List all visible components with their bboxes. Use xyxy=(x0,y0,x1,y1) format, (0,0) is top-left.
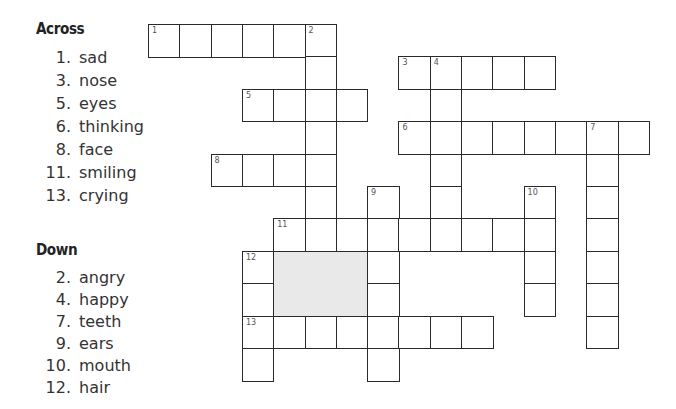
grid-cell[interactable] xyxy=(242,348,275,382)
grid-cell[interactable] xyxy=(305,186,338,220)
grid-cell[interactable] xyxy=(273,154,306,188)
grid-cell[interactable] xyxy=(398,316,431,350)
cell-number: 12 xyxy=(246,253,256,262)
grid-cell[interactable]: 6 xyxy=(398,121,431,155)
cell-number: 5 xyxy=(246,91,251,100)
grid-cell[interactable] xyxy=(618,121,651,155)
grid-cell[interactable] xyxy=(305,218,338,252)
grid-cell[interactable] xyxy=(367,283,400,317)
grid-cell[interactable] xyxy=(524,56,557,90)
grid-cell[interactable] xyxy=(586,218,619,252)
grid-cell[interactable] xyxy=(273,24,306,58)
cell-number: 7 xyxy=(590,123,595,132)
grid-cell[interactable]: 13 xyxy=(242,316,275,350)
cell-number: 9 xyxy=(371,188,376,197)
grid-cell[interactable] xyxy=(492,56,525,90)
grid-cell[interactable] xyxy=(430,186,463,220)
grid-cell[interactable]: 12 xyxy=(242,251,275,285)
grid-cell[interactable] xyxy=(242,154,275,188)
grid-cell[interactable]: 4 xyxy=(430,56,463,90)
cell-number: 3 xyxy=(402,58,407,67)
grid-cell[interactable] xyxy=(461,316,494,350)
cell-number: 8 xyxy=(215,156,220,165)
grid-cell[interactable] xyxy=(305,56,338,90)
grid-cell[interactable] xyxy=(524,218,557,252)
grid-cell[interactable]: 7 xyxy=(586,121,619,155)
grid-cell[interactable]: 1 xyxy=(148,24,181,58)
grid-cell[interactable] xyxy=(461,56,494,90)
grid-cell[interactable] xyxy=(492,121,525,155)
grid-cell[interactable] xyxy=(524,251,557,285)
grid-cell[interactable] xyxy=(305,89,338,123)
grid-cell[interactable] xyxy=(524,121,557,155)
grid-cell[interactable] xyxy=(367,251,400,285)
cell-number: 13 xyxy=(246,318,256,327)
grid-cell[interactable]: 3 xyxy=(398,56,431,90)
grid-cell[interactable] xyxy=(586,251,619,285)
grid-cell[interactable] xyxy=(586,154,619,188)
grid-cell[interactable] xyxy=(273,316,306,350)
grid-cell[interactable] xyxy=(492,218,525,252)
grid-cell[interactable] xyxy=(242,283,275,317)
grid-cell[interactable] xyxy=(430,218,463,252)
cell-number: 6 xyxy=(402,123,407,132)
grid-cell[interactable] xyxy=(586,186,619,220)
grid-cell[interactable] xyxy=(430,316,463,350)
grid-cell[interactable] xyxy=(430,154,463,188)
grid-cell[interactable] xyxy=(179,24,212,58)
grid-cell[interactable]: 10 xyxy=(524,186,557,220)
grid-cell[interactable] xyxy=(367,348,400,382)
cell-number: 2 xyxy=(309,26,314,35)
grid-cell[interactable] xyxy=(461,218,494,252)
shaded-block xyxy=(273,251,368,317)
grid-cell[interactable] xyxy=(305,121,338,155)
grid-cell[interactable]: 2 xyxy=(305,24,338,58)
cell-number: 11 xyxy=(277,220,287,229)
grid-cell[interactable] xyxy=(555,121,588,155)
grid-cell[interactable] xyxy=(242,24,275,58)
grid-cell[interactable] xyxy=(430,89,463,123)
grid-cell[interactable] xyxy=(336,89,369,123)
cell-number: 10 xyxy=(528,188,538,197)
grid-cell[interactable] xyxy=(273,89,306,123)
grid-cell[interactable] xyxy=(586,283,619,317)
grid-cell[interactable] xyxy=(336,218,369,252)
grid-cell[interactable] xyxy=(367,218,400,252)
grid-cell[interactable] xyxy=(461,121,494,155)
cell-number: 1 xyxy=(152,26,157,35)
grid-cell[interactable]: 8 xyxy=(211,154,244,188)
grid-cell[interactable] xyxy=(336,316,369,350)
grid-cell[interactable] xyxy=(211,24,244,58)
cell-number: 4 xyxy=(434,58,439,67)
grid-cell[interactable]: 11 xyxy=(273,218,306,252)
grid-cell[interactable] xyxy=(398,218,431,252)
grid-cell[interactable]: 9 xyxy=(367,186,400,220)
grid-cell[interactable] xyxy=(586,316,619,350)
grid-cell[interactable] xyxy=(524,283,557,317)
grid-cell[interactable]: 5 xyxy=(242,89,275,123)
grid-cell[interactable] xyxy=(367,316,400,350)
grid-cell[interactable] xyxy=(430,121,463,155)
grid-cell[interactable] xyxy=(305,316,338,350)
grid-cell[interactable] xyxy=(305,154,338,188)
crossword-grid: 12345678910111213 xyxy=(0,0,676,409)
